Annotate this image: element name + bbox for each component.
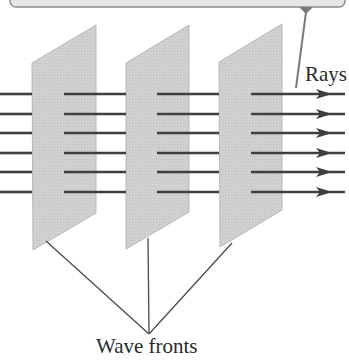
diagram-canvas bbox=[0, 0, 349, 362]
leader-line bbox=[46, 241, 149, 334]
leader-line bbox=[149, 243, 232, 334]
rays-label: Rays bbox=[305, 62, 347, 87]
wave-fronts-diagram: Rays Wave fronts bbox=[0, 0, 349, 362]
wave-front-leader-lines bbox=[46, 238, 232, 334]
wave-front-plane-1 bbox=[32, 25, 96, 250]
wave-fronts-label: Wave fronts bbox=[96, 334, 198, 359]
wave-front-planes bbox=[32, 24, 282, 250]
leader-line bbox=[148, 238, 149, 334]
wave-front-plane-3 bbox=[219, 24, 282, 247]
wave-front-plane-2 bbox=[126, 25, 189, 249]
